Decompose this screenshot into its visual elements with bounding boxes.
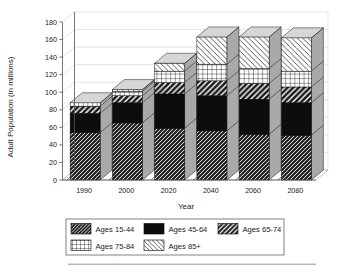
legend-label: Ages 45-64 bbox=[169, 225, 208, 234]
stacked-bar-chart: 020406080100120140160180 199020002020204… bbox=[0, 0, 349, 274]
bar-segment bbox=[239, 69, 269, 84]
x-tick-label-2020: 2020 bbox=[161, 186, 177, 195]
y-tick-label: 0 bbox=[53, 176, 57, 185]
bar-segment bbox=[155, 94, 185, 128]
bar-2060 bbox=[239, 27, 281, 180]
bar-segment bbox=[197, 131, 227, 180]
legend-label: Ages 75-84 bbox=[96, 242, 135, 251]
y-tick-label: 180 bbox=[45, 18, 57, 27]
x-tick-label-2060: 2060 bbox=[245, 186, 261, 195]
legend-item[interactable]: Ages 75-84 bbox=[71, 240, 134, 251]
legend-item[interactable]: Ages 65-74 bbox=[218, 224, 281, 235]
bar-side-face bbox=[100, 93, 112, 180]
bar-segment bbox=[281, 38, 311, 71]
bar-segment bbox=[112, 91, 142, 95]
bar-segment bbox=[112, 96, 142, 103]
bar-segment bbox=[239, 99, 269, 134]
bar-segment bbox=[155, 63, 185, 71]
legend-swatch-light-diagonal-swatch bbox=[144, 240, 164, 251]
bar-segment bbox=[281, 87, 311, 103]
bar-2000 bbox=[112, 80, 154, 180]
legend-label: Ages 85+ bbox=[169, 242, 202, 251]
bar-1990 bbox=[70, 93, 112, 180]
bar-segment bbox=[239, 83, 269, 99]
bar-segment bbox=[281, 135, 311, 180]
y-tick-label: 140 bbox=[45, 53, 57, 62]
legend-item[interactable]: Ages 45-64 bbox=[144, 224, 207, 235]
bar-segment bbox=[239, 134, 269, 180]
bottom-rule bbox=[68, 264, 316, 266]
legend-label: Ages 65-74 bbox=[243, 225, 282, 234]
bar-segment bbox=[112, 123, 142, 180]
legend-swatch-grid-crosshatch-swatch bbox=[71, 240, 91, 251]
legend-item[interactable]: Ages 85+ bbox=[144, 240, 201, 251]
bar-2020 bbox=[155, 53, 197, 180]
x-axis-title: Year bbox=[178, 202, 195, 211]
bar-segment bbox=[155, 128, 185, 180]
bar-side-face bbox=[311, 28, 323, 180]
bar-side-face bbox=[269, 27, 281, 180]
y-tick-label: 100 bbox=[45, 88, 57, 97]
bar-segment bbox=[239, 37, 269, 69]
bar-segment bbox=[197, 64, 227, 81]
bar-segment bbox=[112, 90, 142, 92]
bar-side-face bbox=[142, 80, 154, 180]
bar-segment bbox=[197, 96, 227, 131]
bar-2040 bbox=[197, 27, 239, 180]
x-tick-label-2040: 2040 bbox=[203, 186, 219, 195]
x-tick-label-2000: 2000 bbox=[118, 186, 134, 195]
bar-segment bbox=[112, 103, 142, 123]
bar-2080 bbox=[281, 28, 323, 180]
bar-side-face bbox=[185, 53, 197, 180]
bar-segment bbox=[281, 71, 311, 87]
legend-item[interactable]: Ages 15-44 bbox=[71, 224, 134, 235]
y-tick-label: 80 bbox=[49, 105, 57, 114]
y-axis-title: Adult Population (in millions) bbox=[6, 56, 15, 157]
bar-segment bbox=[197, 81, 227, 96]
legend-swatch-solid-black-swatch bbox=[144, 224, 164, 235]
legend-label: Ages 15-44 bbox=[96, 225, 135, 234]
bar-side-face bbox=[227, 27, 239, 180]
legend: Ages 15-44Ages 45-64Ages 65-74Ages 75-84… bbox=[66, 219, 284, 255]
y-tick-label: 20 bbox=[49, 158, 57, 167]
y-tick-label: 40 bbox=[49, 140, 57, 149]
x-tick-label-1990: 1990 bbox=[76, 186, 92, 195]
y-tick-label: 60 bbox=[49, 123, 57, 132]
legend-swatch-dense-diagonal-dark-swatch bbox=[71, 224, 91, 235]
bar-segment bbox=[155, 83, 185, 94]
y-tick-label: 120 bbox=[45, 70, 57, 79]
legend-swatch-bold-diagonal-stripe-swatch bbox=[218, 224, 238, 235]
chart-figure: 020406080100120140160180 199020002020204… bbox=[0, 0, 349, 274]
y-tick-label: 160 bbox=[45, 35, 57, 44]
bar-segment bbox=[281, 103, 311, 135]
bar-segment bbox=[155, 71, 185, 82]
bar-segment bbox=[197, 37, 227, 64]
x-tick-label-2080: 2080 bbox=[287, 186, 303, 195]
